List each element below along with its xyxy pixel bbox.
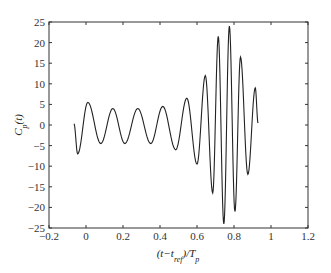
x-tick-label: 1.2 [301,230,315,242]
y-axis-ticks: −25−20−15−10−50510152025 [28,16,308,234]
y-tick-label: −25 [28,222,46,234]
y-tick-label: 0 [40,119,46,131]
y-tick-label: −15 [28,181,46,193]
y-tick-label: 10 [34,78,46,90]
y-tick-label: 15 [34,57,46,69]
x-axis-ticks: −0.200.20.40.60.811.2 [39,22,315,242]
y-axis-label: Cp(t) [12,114,29,136]
y-tick-label: 5 [40,98,46,110]
y-tick-label: −10 [28,160,46,172]
x-tick-label: 0 [83,230,89,242]
series-line-cp [74,26,258,224]
x-tick-label: 0.8 [227,230,241,242]
x-axis-label: (t−tref)/Tp [157,247,200,264]
x-tick-label: 0.6 [190,230,204,242]
plot-frame [49,22,308,228]
x-tick-label: 0.2 [116,230,130,242]
y-tick-label: −5 [33,140,45,152]
y-tick-label: 20 [34,37,46,49]
x-tick-label: 1 [268,230,274,242]
x-tick-label: 0.4 [153,230,167,242]
axes-box [49,22,308,228]
y-tick-label: −20 [28,201,46,213]
y-tick-label: 25 [34,16,46,28]
chart: −0.200.20.40.60.811.2 −25−20−15−10−50510… [0,0,331,273]
